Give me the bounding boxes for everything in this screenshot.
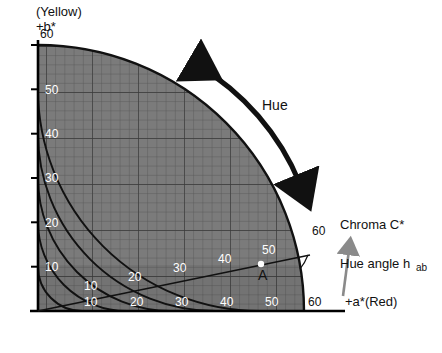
y-tick-10: 10 <box>45 260 59 274</box>
x-tick-30: 30 <box>175 295 189 309</box>
y-tick-20: 20 <box>45 216 59 230</box>
yellow-label: (Yellow) <box>36 4 82 19</box>
chroma-label: Chroma C* <box>340 217 404 232</box>
hue-angle-annotation: Hue angle h ab <box>340 250 428 296</box>
x-tick-60: 60 <box>308 295 322 309</box>
radial-tick-50: 50 <box>262 243 276 257</box>
diagram-canvas: 60 50 40 30 20 10 (Yellow) +b* 10 20 30 … <box>0 0 442 353</box>
y-tick-50: 50 <box>45 83 59 97</box>
a-star-red-label: +a*(Red) <box>345 294 397 309</box>
x-tick-10: 10 <box>84 295 98 309</box>
x-tick-50: 50 <box>265 295 279 309</box>
y-tick-40: 40 <box>45 127 59 141</box>
x-tick-40: 40 <box>220 295 234 309</box>
radial-tick-40: 40 <box>218 252 232 266</box>
radial-tick-30: 30 <box>173 261 187 275</box>
chroma-annotation: Chroma C* <box>340 217 404 232</box>
cielab-quadrant-svg: 60 50 40 30 20 10 (Yellow) +b* 10 20 30 … <box>0 0 442 353</box>
x-tick-20: 20 <box>130 295 144 309</box>
hue-label: Hue <box>262 97 288 113</box>
radial-tick-20: 20 <box>128 270 142 284</box>
hue-angle-sub-label: ab <box>416 262 428 273</box>
y-tick-30: 30 <box>45 171 59 185</box>
chroma-60-label: 60 <box>312 224 326 238</box>
hue-angle-label: Hue angle h <box>340 256 410 271</box>
radial-tick-10: 10 <box>84 279 98 293</box>
b-star-label: +b* <box>36 19 56 34</box>
point-a-label: A <box>258 267 268 283</box>
